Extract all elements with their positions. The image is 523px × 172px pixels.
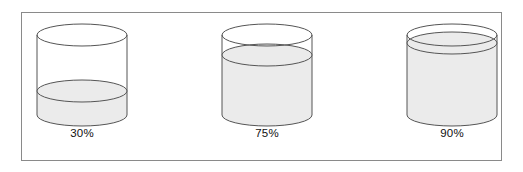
cylinder-liquid-surface bbox=[37, 80, 127, 102]
cylinder-90-label: 90% bbox=[392, 127, 512, 139]
cylinder-75: 75% bbox=[207, 13, 327, 162]
cylinder-30: 30% bbox=[22, 13, 142, 162]
cylinder-90: 90% bbox=[392, 13, 512, 162]
cylinder-75-graphic bbox=[207, 13, 327, 133]
cylinder-liquid-fill bbox=[407, 43, 497, 126]
cylinder-90-graphic bbox=[392, 13, 512, 133]
cylinder-30-label: 30% bbox=[22, 127, 142, 139]
figure-frame: 30% 75% 90% bbox=[21, 12, 502, 161]
cylinder-liquid-surface bbox=[222, 44, 312, 66]
cylinder-75-label: 75% bbox=[207, 127, 327, 139]
cylinder-30-graphic bbox=[22, 13, 142, 133]
